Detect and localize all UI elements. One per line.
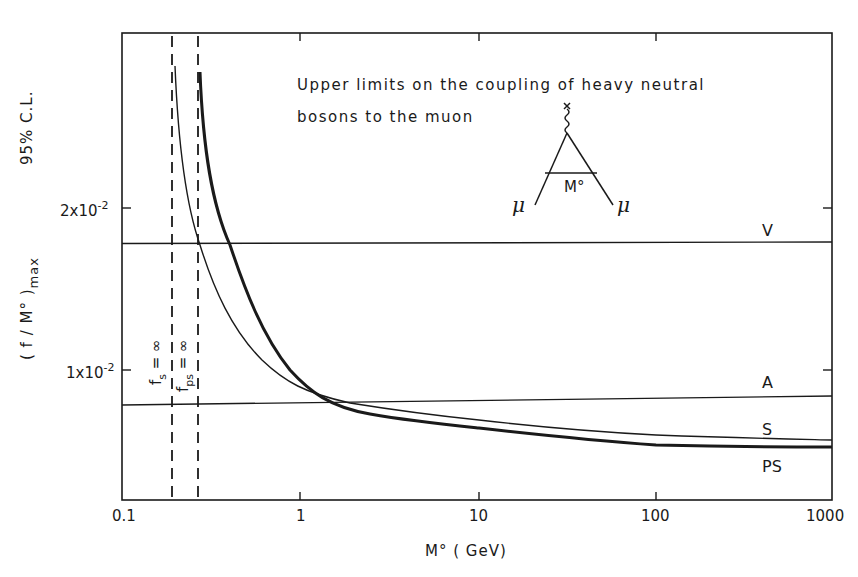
series-ps-curve: [200, 72, 832, 447]
svg-text:10: 10: [469, 507, 488, 525]
svg-text:2x10-2: 2x10-2: [60, 199, 108, 220]
chart: 0.1 1 10 100 1000 2x10-2 1x10-2 M° ( GeV…: [0, 0, 858, 577]
y-tick-labels: 2x10-2 1x10-2: [60, 199, 114, 382]
y-axis-cl: 95% C.L.: [18, 91, 36, 165]
x-ticks: [300, 33, 656, 500]
svg-text:1x10-2: 1x10-2: [66, 361, 114, 382]
label-a: A: [762, 373, 773, 392]
diagram-label-mu-left: μ: [512, 193, 525, 217]
asymptote-fs-label: fs = ∞: [147, 329, 169, 387]
svg-text:0.1: 0.1: [112, 507, 136, 525]
annotation-line-1: Upper limits on the coupling of heavy ne…: [297, 76, 705, 94]
x-tick-labels: 0.1 1 10 100 1000: [112, 507, 844, 525]
asymptote-fps-label: fps = ∞: [174, 332, 196, 394]
diagram-label-mu-right: μ: [617, 193, 630, 217]
annotation-line-2: bosons to the muon: [297, 108, 474, 126]
y-axis-title: ( f / M° )max: [18, 257, 41, 360]
label-ps: PS: [762, 457, 782, 476]
series-a-line: [122, 396, 832, 405]
svg-text:1000: 1000: [806, 507, 844, 525]
plot-frame: [122, 33, 832, 500]
svg-text:100: 100: [641, 507, 670, 525]
series-s-curve: [175, 66, 832, 440]
y-ticks: [122, 208, 832, 370]
diagram-label-m0: M°: [564, 178, 584, 196]
svg-text:1: 1: [296, 507, 306, 525]
x-axis-title: M° ( GeV): [425, 542, 507, 560]
svg-text:( f / M° )max: ( f / M° )max: [18, 257, 41, 360]
label-v: V: [762, 221, 773, 240]
label-s: S: [762, 420, 772, 439]
